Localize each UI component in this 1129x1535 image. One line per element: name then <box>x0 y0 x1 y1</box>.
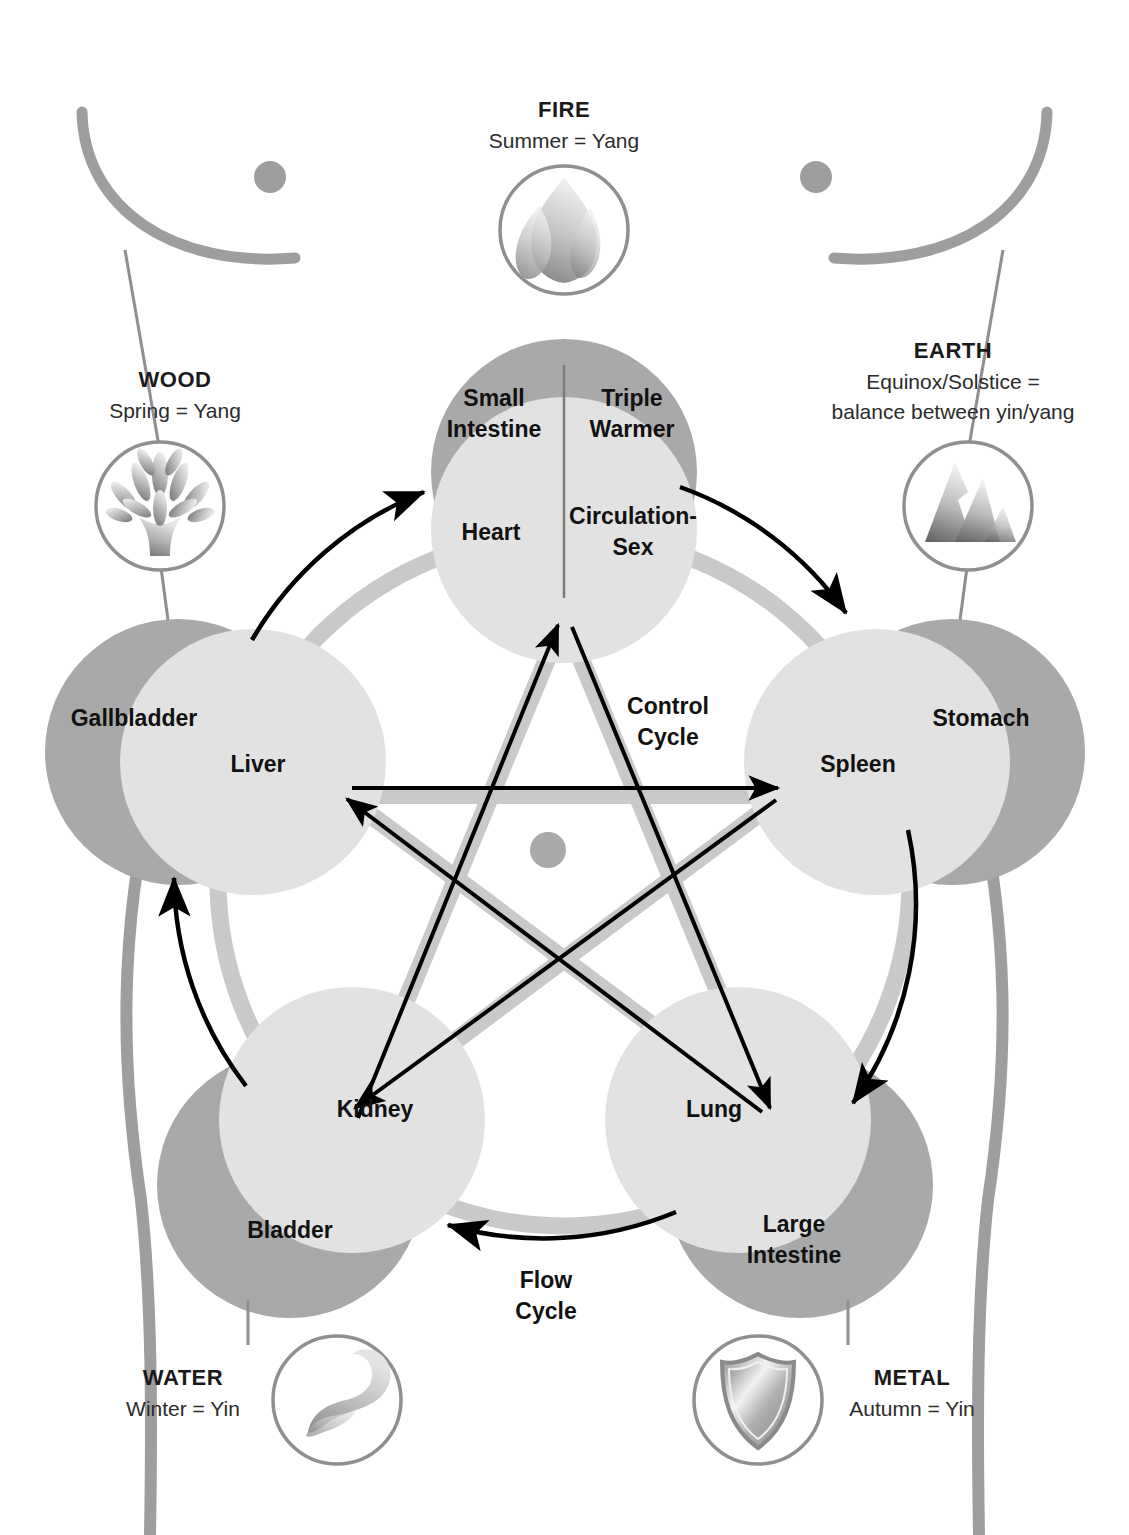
organ-label-triple-warmer-line2: Warmer <box>590 416 675 442</box>
water-element-title: WATER <box>143 1365 223 1390</box>
organ-label-spleen: Spleen <box>820 751 895 777</box>
organ-label-stomach: Stomach <box>932 705 1029 731</box>
earth-icon-badge <box>904 442 1032 570</box>
organ-label-large-intestine-line2: Intestine <box>747 1242 842 1268</box>
water-icon-badge <box>273 1336 401 1464</box>
five-elements-diagram: FIRE Summer = Yang WOOD Spring = Yang EA… <box>0 0 1129 1535</box>
water-element-season: Winter = Yin <box>126 1397 240 1420</box>
fire-icon-badge <box>500 166 628 294</box>
metal-element-title: METAL <box>874 1365 951 1390</box>
organ-label-kidney: Kidney <box>337 1096 414 1122</box>
organ-label-lung: Lung <box>686 1096 742 1122</box>
organ-label-circulation-sex-line2: Sex <box>613 534 654 560</box>
metal-icon-badge <box>694 1336 822 1464</box>
center-dot <box>530 832 566 868</box>
right-nipple-dot <box>800 161 832 193</box>
organ-label-small-intestine-line2: Intestine <box>447 416 542 442</box>
organ-label-gallbladder: Gallbladder <box>71 705 198 731</box>
flow-cycle-label-line2: Cycle <box>515 1298 576 1324</box>
organ-label-circulation-sex-line1: Circulation- <box>569 503 697 529</box>
organ-label-heart: Heart <box>462 519 521 545</box>
organ-label-bladder: Bladder <box>247 1217 333 1243</box>
element-circle-metal <box>605 987 933 1318</box>
earth-element-season-line2: balance between yin/yang <box>832 400 1075 423</box>
earth-icon-ring <box>904 442 1032 570</box>
wood-icon-badge <box>96 442 224 570</box>
wood-element-season: Spring = Yang <box>109 399 241 422</box>
diagram-canvas: FIRE Summer = Yang WOOD Spring = Yang EA… <box>0 0 1129 1535</box>
control-cycle-label-line1: Control <box>627 693 709 719</box>
earth-element-season-line1: Equinox/Solstice = <box>866 370 1039 393</box>
flow-cycle-label-line1: Flow <box>520 1267 572 1293</box>
right-body-outline <box>977 790 1003 1535</box>
element-circle-wood <box>45 619 386 895</box>
organ-label-liver: Liver <box>231 751 286 777</box>
fire-element-title: FIRE <box>538 97 590 122</box>
control-cycle-label-line2: Cycle <box>637 724 698 750</box>
wood-element-title: WOOD <box>139 367 212 392</box>
left-body-outline <box>126 790 152 1535</box>
element-circle-water <box>157 987 485 1318</box>
organ-label-small-intestine-line1: Small <box>463 385 524 411</box>
fire-element-season: Summer = Yang <box>489 129 639 152</box>
metal-element-season: Autumn = Yin <box>849 1397 975 1420</box>
earth-element-title: EARTH <box>914 338 992 363</box>
right-breast-curve <box>834 112 1047 259</box>
organ-label-triple-warmer-line1: Triple <box>601 385 662 411</box>
organ-label-large-intestine-line1: Large <box>763 1211 826 1237</box>
left-nipple-dot <box>254 161 286 193</box>
